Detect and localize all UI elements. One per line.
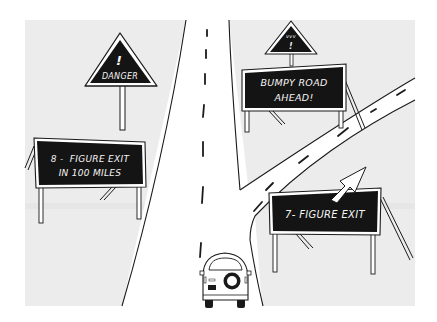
license-plate: [208, 285, 216, 290]
exit-8-sign-line2: IN 100 MILES: [59, 168, 122, 178]
bumpy-sign-line2: AHEAD!: [273, 92, 313, 103]
bumpy-triangle-wave-glyph: vvv: [286, 33, 297, 39]
danger-sign-text: DANGER: [102, 72, 138, 81]
danger-sign-pole: [120, 85, 125, 130]
bumpy-triangle-exclaim-glyph: !: [289, 42, 293, 51]
exit-7-sign-line1: 7- FIGURE EXIT: [285, 209, 365, 220]
bumpy-sign-line1: BUMPY ROAD: [260, 77, 327, 88]
danger-sign-glyph: !: [116, 53, 122, 68]
exit-8-sign-line1: 8 - FIGURE EXIT: [51, 154, 131, 164]
highway-illustration: ! DANGER vvv ! BUMPY ROAD AHEAD!: [0, 0, 437, 322]
suv-car: [200, 253, 251, 308]
